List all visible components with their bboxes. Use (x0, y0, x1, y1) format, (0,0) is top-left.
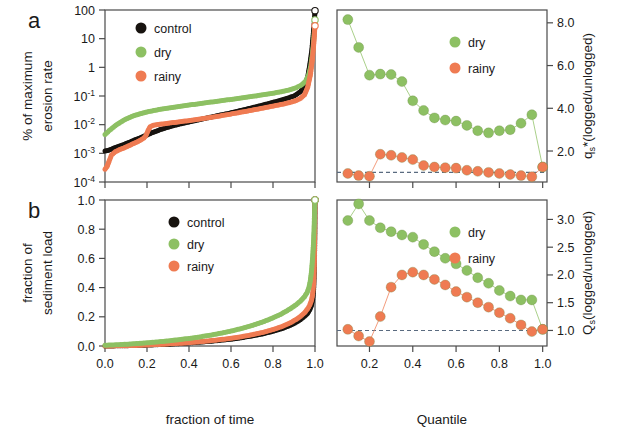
legend-marker-rainy (136, 71, 147, 82)
data-point (516, 320, 526, 330)
data-point (505, 291, 515, 301)
multi-panel-figure: 10010110-110-210-310-4controldryrainya% … (0, 0, 620, 434)
y-tick-label: 2.5 (557, 241, 574, 255)
x-tick-label: 0.4 (180, 357, 197, 371)
data-point (451, 116, 461, 126)
x-tick-label: 0.4 (404, 357, 421, 371)
data-point (429, 113, 439, 123)
data-point (354, 199, 364, 209)
data-point (494, 285, 504, 295)
data-point (516, 295, 526, 305)
legend-label-control: control (154, 22, 192, 36)
data-point (386, 227, 396, 237)
data-point-terminal (312, 23, 318, 29)
data-point (484, 302, 494, 312)
data-point (484, 167, 494, 177)
series-connector (348, 20, 543, 167)
x-axis-title-right: Quantile (417, 412, 467, 427)
data-point (505, 313, 515, 323)
data-point (364, 337, 374, 347)
data-point (473, 166, 483, 176)
x-tick-label: 0.6 (222, 357, 239, 371)
panel-letter-b: b (28, 198, 40, 223)
data-point (462, 165, 472, 175)
data-point (343, 216, 353, 226)
legend-label-rainy: rainy (154, 70, 182, 84)
data-point (505, 170, 515, 180)
data-point (527, 295, 537, 305)
y-tick-label: 1.5 (557, 296, 574, 310)
data-point (429, 162, 439, 172)
data-point (429, 274, 439, 284)
series-rainy (343, 149, 548, 181)
legend-marker-control (136, 23, 147, 34)
data-point (494, 168, 504, 178)
data-point (462, 292, 472, 302)
legend-marker-control (169, 217, 180, 228)
data-point (343, 15, 353, 25)
legend-label-dry: dry (468, 226, 486, 240)
data-point (343, 324, 353, 334)
x-tick-label: 0.2 (138, 357, 155, 371)
legend-label-dry: dry (468, 36, 486, 50)
data-point (397, 77, 407, 87)
panel-c: 2.04.06.08.0dryrainyqs*(logged/unlogged) (337, 10, 597, 188)
data-point (354, 171, 364, 181)
figure-container: 10010110-110-210-310-4controldryrainya% … (0, 0, 620, 434)
data-point (408, 232, 418, 242)
y-axis-title-a-line1: % of maximum (20, 51, 35, 140)
y-tick-label: 0.6 (78, 252, 95, 266)
x-tick-label: 0.8 (491, 357, 508, 371)
data-point (397, 230, 407, 240)
y-tick-label: 10 (81, 32, 95, 46)
y-tick-label: 0.4 (78, 281, 95, 295)
panel-letter-a: a (28, 8, 41, 33)
series-connector (348, 204, 543, 329)
data-point (429, 247, 439, 257)
data-point (440, 280, 450, 290)
y-tick-label: 6.0 (557, 59, 574, 73)
plot-frame (105, 10, 315, 182)
data-point (386, 70, 396, 80)
data-point (538, 324, 548, 334)
data-point (440, 163, 450, 173)
data-point (473, 273, 483, 283)
data-point (364, 216, 374, 226)
x-tick-label: 1.0 (306, 357, 323, 371)
y-tick-label: 1.0 (78, 194, 95, 208)
y-tick-label: 0.0 (78, 340, 95, 354)
data-point (386, 150, 396, 160)
y-axis-title-a-line2: erosion rate (40, 60, 55, 131)
data-point (505, 125, 515, 135)
data-point (375, 69, 385, 79)
y-tick-label: 3.0 (557, 213, 574, 227)
y-axis-title-d: Qs(logged/unlogged) (580, 211, 597, 335)
legend-marker-dry (169, 239, 180, 250)
legend-marker-rainy (450, 63, 461, 74)
legend-marker-dry (136, 47, 147, 58)
x-tick-label: 1.0 (534, 357, 551, 371)
y-axis-title-b-line1: fraction of (20, 243, 35, 303)
y-tick-label: 0.8 (78, 223, 95, 237)
legend-marker-dry (450, 227, 461, 238)
data-point (451, 287, 461, 297)
data-point (408, 267, 418, 277)
panel-b: 0.00.20.40.60.81.00.00.20.40.60.81.0cont… (20, 194, 324, 428)
y-tick-label: 0.2 (78, 310, 95, 324)
data-point (484, 128, 494, 138)
y-tick-label: 4.0 (557, 102, 574, 116)
y-tick-label: 1 (88, 61, 95, 75)
data-point (354, 331, 364, 341)
y-tick-label: 100 (74, 4, 95, 18)
y-tick-label: 10-2 (74, 116, 96, 132)
data-point (408, 96, 418, 106)
data-point (364, 70, 374, 80)
y-axis-title-b-line2: sediment load (40, 231, 55, 315)
data-point (419, 105, 429, 115)
data-point (538, 162, 548, 172)
y-tick-label: 10-1 (74, 88, 96, 104)
y-tick-label: 10-4 (74, 174, 96, 190)
data-point (419, 239, 429, 249)
data-point (375, 223, 385, 233)
x-tick-label: 0.0 (96, 357, 113, 371)
